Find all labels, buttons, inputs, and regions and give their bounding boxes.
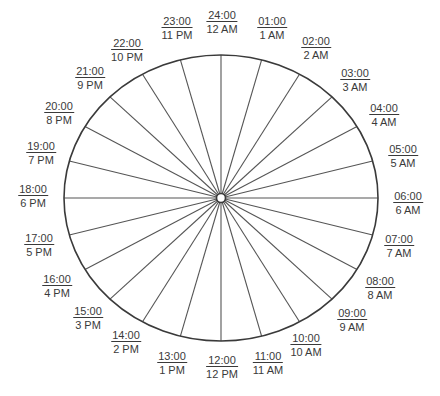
hour-label: 22:0010 PM [111, 37, 143, 63]
hour-label: 05:005 AM [388, 143, 418, 169]
hour-label: 08:008 AM [365, 275, 395, 301]
hour-label-24h: 23:00 [162, 15, 193, 28]
hour-label-12h: 1 AM [257, 29, 287, 41]
hour-label-12h: 4 PM [42, 287, 72, 299]
hour-label: 20:008 PM [44, 100, 74, 126]
hour-label-24h: 11:00 [253, 350, 283, 363]
hour-spoke [110, 97, 221, 198]
hour-label: 13:001 PM [157, 350, 187, 376]
hour-label-12h: 8 AM [365, 289, 395, 301]
hour-label-12h: 2 PM [111, 343, 141, 355]
hour-label-24h: 16:00 [42, 273, 72, 286]
hour-label-12h: 7 PM [26, 154, 56, 166]
hour-label-12h: 10 PM [111, 51, 143, 63]
hour-label: 07:007 AM [384, 233, 414, 259]
hour-label: 23:0011 PM [162, 15, 193, 41]
hour-label: 24:0012 AM [206, 9, 237, 35]
hour-label-24h: 17:00 [24, 232, 54, 245]
hour-label: 11:0011 AM [253, 350, 283, 376]
hour-label-24h: 10:00 [290, 332, 321, 345]
hour-spoke [221, 198, 357, 270]
hour-spoke [143, 74, 222, 198]
hour-label-12h: 5 AM [388, 157, 418, 169]
hour-spoke [69, 161, 221, 198]
hour-spoke [110, 198, 221, 299]
hour-label-24h: 02:00 [301, 35, 331, 48]
hour-label: 09:009 AM [337, 307, 367, 333]
hour-label-24h: 15:00 [73, 305, 103, 318]
hour-label-24h: 08:00 [365, 275, 395, 288]
hour-label-12h: 9 AM [337, 321, 367, 333]
hour-label-12h: 8 PM [44, 114, 74, 126]
hour-label-24h: 09:00 [337, 307, 367, 320]
hour-label-12h: 11 AM [253, 364, 283, 376]
hour-label-24h: 01:00 [257, 15, 287, 28]
hour-label: 17:005 PM [24, 232, 54, 258]
hour-spoke [180, 198, 221, 336]
hour-spoke [85, 198, 221, 270]
hour-label-12h: 10 AM [290, 346, 321, 358]
hour-label: 12:0012 PM [206, 354, 238, 380]
hour-label-24h: 04:00 [369, 102, 399, 115]
hour-spoke [221, 198, 332, 299]
hour-label-12h: 7 AM [384, 247, 414, 259]
hour-label-12h: 5 PM [24, 246, 54, 258]
hour-label: 19:007 PM [26, 140, 56, 166]
hour-label-12h: 12 AM [206, 23, 237, 35]
hour-label-24h: 06:00 [393, 190, 423, 203]
hour-label-24h: 20:00 [44, 100, 74, 113]
hour-label-24h: 12:00 [206, 354, 238, 367]
hour-label: 14:002 PM [111, 329, 141, 355]
hour-label-24h: 21:00 [75, 65, 105, 78]
hour-label: 18:006 PM [18, 183, 48, 209]
hour-label-12h: 12 PM [206, 368, 238, 380]
hour-label-12h: 9 PM [75, 79, 105, 91]
hour-label-24h: 07:00 [384, 233, 414, 246]
hour-label: 01:001 AM [257, 15, 287, 41]
hour-label-24h: 05:00 [388, 143, 418, 156]
hour-label: 16:004 PM [42, 273, 72, 299]
hour-label-24h: 19:00 [26, 140, 56, 153]
hour-label-12h: 1 PM [157, 364, 187, 376]
hour-spoke [69, 198, 221, 235]
hour-label: 21:009 PM [75, 65, 105, 91]
hour-label: 02:002 AM [301, 35, 331, 61]
hour-label-24h: 13:00 [157, 350, 187, 363]
hour-spoke [221, 198, 262, 336]
hour-spoke [143, 198, 222, 322]
hour-label: 06:006 AM [393, 190, 423, 216]
hour-label-24h: 24:00 [206, 9, 237, 22]
hour-spoke [221, 127, 357, 199]
hour-label-24h: 18:00 [18, 183, 48, 196]
hour-label-12h: 4 AM [369, 116, 399, 128]
hour-spoke [180, 60, 221, 198]
hour-spoke [221, 60, 262, 198]
hour-label-12h: 3 AM [340, 81, 370, 93]
hour-spoke [221, 97, 332, 198]
hour-spoke [221, 198, 373, 235]
hour-label: 10:0010 AM [290, 332, 321, 358]
hour-spoke [221, 198, 300, 322]
hour-label: 03:003 AM [340, 67, 370, 93]
center-hub [217, 194, 226, 203]
clock-diagram [0, 0, 440, 396]
hour-label-12h: 6 AM [393, 204, 423, 216]
hour-label-24h: 22:00 [111, 37, 143, 50]
hour-label: 04:004 AM [369, 102, 399, 128]
hour-label-12h: 11 PM [162, 29, 193, 41]
hour-spoke [85, 127, 221, 199]
hour-label: 15:003 PM [73, 305, 103, 331]
hour-label-12h: 2 AM [301, 49, 331, 61]
hour-label-12h: 3 PM [73, 319, 103, 331]
hour-label-12h: 6 PM [18, 197, 48, 209]
hour-label-24h: 03:00 [340, 67, 370, 80]
hour-label-24h: 14:00 [111, 329, 141, 342]
hour-spoke [221, 161, 373, 198]
hour-spoke [221, 74, 300, 198]
